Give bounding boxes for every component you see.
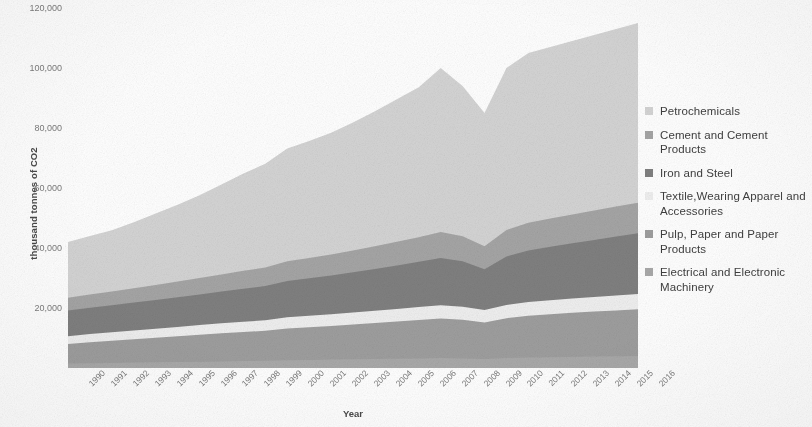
x-axis-tick: 1991 [108, 368, 128, 388]
x-axis-tick: 1992 [130, 368, 150, 388]
legend-label: Textile,Wearing Apparel and Accessories [660, 189, 812, 218]
x-axis-tick: 2009 [503, 368, 523, 388]
legend-item[interactable]: Petrochemicals [645, 104, 812, 119]
legend-swatch-icon [645, 192, 653, 200]
stacked-area-chart: thousand tonnes of CO2 20,00040,00060,00… [0, 0, 812, 427]
x-axis-tick: 2016 [657, 368, 677, 388]
legend-item[interactable]: Iron and Steel [645, 166, 812, 181]
x-axis-tick: 2008 [481, 368, 501, 388]
x-axis-tick: 1999 [284, 368, 304, 388]
x-axis-tick: 2010 [525, 368, 545, 388]
legend-label: Electrical and Electronic Machinery [660, 265, 812, 294]
legend-item[interactable]: Electrical and Electronic Machinery [645, 265, 812, 294]
legend-label: Petrochemicals [660, 104, 740, 119]
x-axis-tick: 1993 [152, 368, 172, 388]
legend-swatch-icon [645, 131, 653, 139]
x-axis-tick: 2001 [328, 368, 348, 388]
y-axis-tick: 100,000 [6, 63, 62, 73]
x-axis-tick: 2002 [350, 368, 370, 388]
y-axis-tick: 120,000 [6, 3, 62, 13]
y-axis-tick: 20,000 [6, 303, 62, 313]
x-axis-tick: 2006 [437, 368, 457, 388]
x-axis-tick: 2014 [613, 368, 633, 388]
stacked-area-series [68, 8, 638, 368]
y-axis-tick-labels: 20,00040,00060,00080,000100,000120,000 [6, 0, 62, 427]
legend-swatch-icon [645, 230, 653, 238]
legend-item[interactable]: Cement and Cement Products [645, 128, 812, 157]
x-axis-tick: 2013 [591, 368, 611, 388]
legend-label: Pulp, Paper and Paper Products [660, 227, 812, 256]
y-axis-tick: 40,000 [6, 243, 62, 253]
x-axis-tick: 2011 [547, 368, 567, 388]
x-axis-tick: 2003 [372, 368, 392, 388]
x-axis-tick: 2000 [306, 368, 326, 388]
x-axis-tick: 2005 [415, 368, 435, 388]
legend-item[interactable]: Pulp, Paper and Paper Products [645, 227, 812, 256]
x-axis-tick: 2007 [459, 368, 479, 388]
legend-swatch-icon [645, 268, 653, 276]
x-axis-tick: 1996 [218, 368, 238, 388]
x-axis-tick: 2004 [393, 368, 413, 388]
legend-label: Iron and Steel [660, 166, 733, 181]
x-axis-tick: 1994 [174, 368, 194, 388]
x-axis-tick: 1998 [262, 368, 282, 388]
y-axis-tick: 80,000 [6, 123, 62, 133]
x-axis-tick: 1997 [240, 368, 260, 388]
chart-legend: PetrochemicalsCement and Cement Products… [645, 104, 812, 303]
legend-label: Cement and Cement Products [660, 128, 812, 157]
legend-item[interactable]: Textile,Wearing Apparel and Accessories [645, 189, 812, 218]
x-axis-tick: 2012 [569, 368, 589, 388]
x-axis-title: Year [68, 408, 638, 419]
legend-swatch-icon [645, 107, 653, 115]
plot-area [68, 8, 638, 368]
y-axis-tick: 60,000 [6, 183, 62, 193]
x-axis-tick: 1995 [196, 368, 216, 388]
x-axis-tick: 1990 [87, 368, 107, 388]
x-axis-tick: 2015 [635, 368, 655, 388]
legend-swatch-icon [645, 169, 653, 177]
